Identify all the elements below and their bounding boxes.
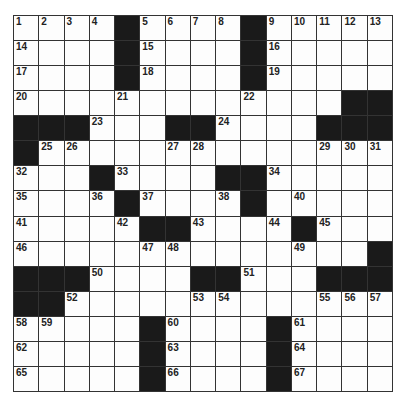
grid-cell[interactable] [39, 166, 63, 190]
grid-cell[interactable] [191, 191, 215, 215]
grid-cell[interactable]: 43 [191, 217, 215, 241]
grid-cell[interactable] [39, 191, 63, 215]
grid-cell[interactable] [39, 242, 63, 266]
grid-cell[interactable] [65, 191, 89, 215]
grid-cell[interactable] [216, 91, 240, 115]
grid-cell[interactable] [317, 91, 341, 115]
grid-cell[interactable]: 21 [115, 91, 139, 115]
grid-cell[interactable]: 26 [65, 141, 89, 165]
grid-cell[interactable] [191, 91, 215, 115]
grid-cell[interactable] [241, 292, 265, 316]
grid-cell[interactable] [140, 166, 164, 190]
grid-cell[interactable]: 52 [65, 292, 89, 316]
grid-cell[interactable] [216, 217, 240, 241]
grid-cell[interactable] [191, 342, 215, 366]
grid-cell[interactable] [65, 91, 89, 115]
grid-cell[interactable] [216, 317, 240, 341]
grid-cell[interactable]: 41 [14, 217, 38, 241]
grid-cell[interactable]: 10 [292, 16, 316, 40]
grid-cell[interactable]: 17 [14, 66, 38, 90]
grid-cell[interactable] [241, 242, 265, 266]
grid-cell[interactable]: 46 [14, 242, 38, 266]
grid-cell[interactable]: 2 [39, 16, 63, 40]
grid-cell[interactable] [342, 317, 366, 341]
grid-cell[interactable]: 66 [166, 367, 190, 391]
grid-cell[interactable]: 47 [140, 242, 164, 266]
grid-cell[interactable] [368, 367, 392, 391]
grid-cell[interactable] [140, 116, 164, 140]
grid-cell[interactable] [39, 66, 63, 90]
grid-cell[interactable] [267, 141, 291, 165]
grid-cell[interactable] [342, 166, 366, 190]
grid-cell[interactable]: 13 [368, 16, 392, 40]
grid-cell[interactable] [90, 292, 114, 316]
grid-cell[interactable] [368, 342, 392, 366]
grid-cell[interactable] [90, 242, 114, 266]
grid-cell[interactable] [317, 166, 341, 190]
grid-cell[interactable]: 67 [292, 367, 316, 391]
grid-cell[interactable] [90, 342, 114, 366]
grid-cell[interactable]: 4 [90, 16, 114, 40]
grid-cell[interactable] [292, 66, 316, 90]
grid-cell[interactable] [115, 342, 139, 366]
grid-cell[interactable] [342, 342, 366, 366]
grid-cell[interactable] [65, 66, 89, 90]
grid-cell[interactable]: 64 [292, 342, 316, 366]
grid-cell[interactable] [292, 292, 316, 316]
grid-cell[interactable]: 42 [115, 217, 139, 241]
grid-cell[interactable]: 48 [166, 242, 190, 266]
grid-cell[interactable] [292, 116, 316, 140]
grid-cell[interactable]: 32 [14, 166, 38, 190]
grid-cell[interactable] [216, 41, 240, 65]
grid-cell[interactable] [140, 91, 164, 115]
grid-cell[interactable]: 22 [241, 91, 265, 115]
grid-cell[interactable]: 11 [317, 16, 341, 40]
grid-cell[interactable]: 25 [39, 141, 63, 165]
grid-cell[interactable] [292, 141, 316, 165]
grid-cell[interactable]: 61 [292, 317, 316, 341]
grid-cell[interactable] [292, 166, 316, 190]
grid-cell[interactable]: 51 [241, 267, 265, 291]
grid-cell[interactable]: 23 [90, 116, 114, 140]
grid-cell[interactable] [267, 116, 291, 140]
grid-cell[interactable]: 53 [191, 292, 215, 316]
grid-cell[interactable] [90, 367, 114, 391]
grid-cell[interactable] [342, 242, 366, 266]
grid-cell[interactable] [39, 217, 63, 241]
grid-cell[interactable] [368, 191, 392, 215]
grid-cell[interactable] [140, 267, 164, 291]
grid-cell[interactable] [317, 41, 341, 65]
grid-cell[interactable] [65, 242, 89, 266]
grid-cell[interactable] [115, 267, 139, 291]
grid-cell[interactable] [191, 41, 215, 65]
grid-cell[interactable] [90, 66, 114, 90]
grid-cell[interactable] [317, 317, 341, 341]
grid-cell[interactable] [317, 242, 341, 266]
grid-cell[interactable]: 63 [166, 342, 190, 366]
grid-cell[interactable]: 7 [191, 16, 215, 40]
grid-cell[interactable] [115, 292, 139, 316]
grid-cell[interactable] [39, 367, 63, 391]
grid-cell[interactable] [241, 367, 265, 391]
grid-cell[interactable]: 49 [292, 242, 316, 266]
grid-cell[interactable] [39, 41, 63, 65]
grid-cell[interactable] [267, 242, 291, 266]
grid-cell[interactable]: 15 [140, 41, 164, 65]
grid-cell[interactable] [216, 367, 240, 391]
grid-cell[interactable]: 9 [267, 16, 291, 40]
grid-cell[interactable] [292, 41, 316, 65]
grid-cell[interactable]: 60 [166, 317, 190, 341]
grid-cell[interactable] [166, 166, 190, 190]
grid-cell[interactable] [191, 242, 215, 266]
grid-cell[interactable] [115, 367, 139, 391]
grid-cell[interactable] [140, 292, 164, 316]
grid-cell[interactable] [65, 367, 89, 391]
grid-cell[interactable]: 55 [317, 292, 341, 316]
grid-cell[interactable] [90, 317, 114, 341]
grid-cell[interactable]: 5 [140, 16, 164, 40]
grid-cell[interactable]: 12 [342, 16, 366, 40]
grid-cell[interactable] [368, 66, 392, 90]
grid-cell[interactable] [115, 317, 139, 341]
grid-cell[interactable] [115, 141, 139, 165]
grid-cell[interactable]: 65 [14, 367, 38, 391]
